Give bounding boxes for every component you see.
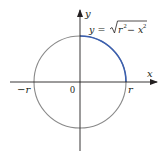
neg-r-label: −r xyxy=(17,84,31,95)
pos-r-label: r xyxy=(128,84,134,95)
equation-sup-2: 2 xyxy=(143,22,146,29)
circle-diagram: y x −r 0 r y = r 2 − x 2 xyxy=(0,0,161,158)
y-axis-label: y xyxy=(84,8,91,19)
equation-minus-x: − x xyxy=(127,24,144,35)
x-axis-label: x xyxy=(147,68,153,79)
equation-label: y = r 2 − x 2 xyxy=(88,21,147,35)
origin-label: 0 xyxy=(70,84,75,95)
highlighted-quarter-arc xyxy=(80,36,126,82)
equation-lhs: y = xyxy=(88,24,105,35)
